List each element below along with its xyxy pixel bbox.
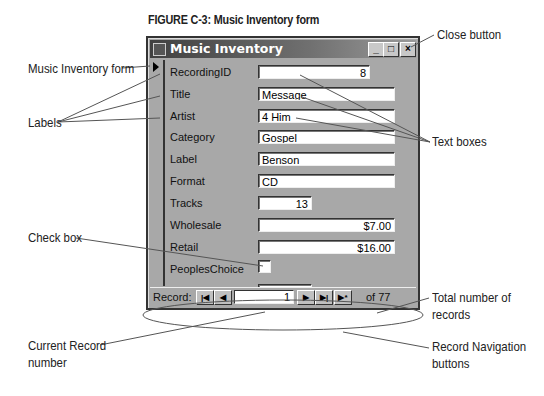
callout-nav-buttons-line2: buttons (432, 355, 526, 372)
retail-field[interactable]: $16.00 (258, 240, 395, 254)
figure-number: FIGURE C-3: (148, 13, 211, 27)
tracks-field[interactable]: 13 (258, 196, 312, 210)
figure-title: Music Inventory form (214, 13, 320, 27)
current-record-field[interactable]: 1 (234, 290, 294, 304)
wholesale-field[interactable]: $7.00 (258, 218, 395, 232)
label-artist: Artist (170, 110, 195, 122)
format-field[interactable]: CD (258, 174, 395, 188)
callout-total-records-line2: records (432, 306, 511, 323)
category-field[interactable]: Gospel (258, 130, 395, 144)
new-record-button[interactable]: ▶* (334, 290, 352, 305)
label-retail: Retail (170, 241, 198, 253)
title-field[interactable]: Message (258, 87, 395, 101)
last-record-button[interactable]: ▶| (315, 290, 333, 305)
peopleschoice-checkbox[interactable] (258, 260, 271, 273)
label-format: Format (170, 175, 205, 187)
callout-check-box: Check box (28, 229, 82, 246)
record-selector[interactable] (150, 60, 164, 286)
record-label: Record: (153, 291, 192, 303)
title-bar[interactable]: Music Inventory _ □ × (150, 40, 416, 58)
label-title: Title (170, 88, 190, 100)
callout-current-record-line2: number (28, 354, 106, 371)
maximize-button[interactable]: □ (383, 42, 399, 57)
label-wholesale: Wholesale (170, 219, 221, 231)
close-button[interactable]: × (400, 42, 416, 57)
callout-total-records-line1: Total number of (432, 289, 511, 306)
callout-total-records: Total number of records (432, 289, 511, 323)
first-record-button[interactable]: |◀ (196, 290, 214, 305)
record-navigation-bar: Record: |◀ ◀ 1 ▶ ▶| ▶* of 77 (150, 287, 416, 306)
previous-record-button[interactable]: ◀ (214, 290, 232, 305)
window-title: Music Inventory (170, 41, 283, 56)
music-inventory-window: Music Inventory _ □ × RecordingID 8 Titl… (146, 36, 420, 310)
form-icon[interactable] (153, 43, 166, 56)
label-tracks: Tracks (170, 197, 203, 209)
of-text: of (366, 291, 375, 303)
label-category: Category (170, 131, 215, 143)
callout-text-boxes: Text boxes (432, 133, 487, 150)
label-peopleschoice: PeoplesChoice (170, 263, 244, 275)
callout-form: Music Inventory form (28, 60, 134, 77)
callout-close-button: Close button (437, 26, 501, 43)
artist-field[interactable]: 4 Him (258, 109, 395, 123)
total-records: 77 (378, 291, 390, 303)
minimize-button[interactable]: _ (368, 42, 384, 57)
callout-nav-buttons-line1: Record Navigation (432, 338, 526, 355)
record-count: of 77 (366, 291, 391, 303)
callout-current-record-line1: Current Record (28, 337, 106, 354)
next-record-button[interactable]: ▶ (297, 290, 315, 305)
form-body: RecordingID 8 Title Message Artist 4 Him… (164, 60, 416, 286)
callout-nav-buttons: Record Navigation buttons (432, 338, 526, 372)
recordingid-field[interactable]: 8 (258, 65, 370, 79)
label-recordingid: RecordingID (170, 66, 231, 78)
current-record-arrow-icon (153, 62, 159, 72)
callout-labels: Labels (28, 114, 62, 131)
figure-caption: FIGURE C-3: Music Inventory form (148, 13, 319, 27)
callout-current-record: Current Record number (28, 337, 106, 371)
label-label: Label (170, 153, 197, 165)
label-field[interactable]: Benson (258, 152, 395, 166)
